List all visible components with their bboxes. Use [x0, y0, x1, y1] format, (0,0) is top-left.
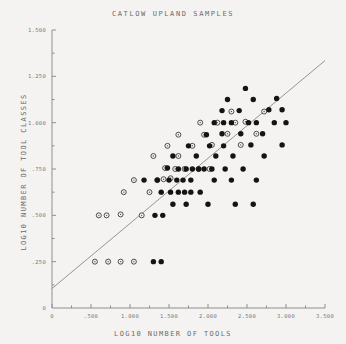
y-tick-label: 1.000	[4, 120, 46, 126]
y-tick-label: .500	[4, 212, 46, 218]
x-tick-label: 3.000	[264, 313, 308, 319]
x-tick-label: 3.500	[303, 313, 346, 319]
y-tick-label: 1.500	[4, 27, 46, 33]
scatter-plot-figure: CATLOW UPLAND SAMPLES LOG10 NUMBER OF TO…	[0, 0, 346, 344]
x-tick-label: 1.000	[108, 313, 152, 319]
x-tick-label: 2.000	[186, 313, 230, 319]
x-tick-label: 2.500	[225, 313, 269, 319]
x-tick-label: 0	[30, 313, 74, 319]
y-tick-label-zero: 0	[4, 305, 46, 311]
x-tick-label: .500	[69, 313, 113, 319]
data-points	[92, 86, 288, 265]
y-tick-label: .250	[4, 259, 46, 265]
plot-canvas	[0, 0, 346, 344]
trendline	[52, 61, 325, 289]
y-tick-label: 1.250	[4, 73, 46, 79]
x-tick-label: 1.500	[147, 313, 191, 319]
y-tick-label: .750	[4, 166, 46, 172]
